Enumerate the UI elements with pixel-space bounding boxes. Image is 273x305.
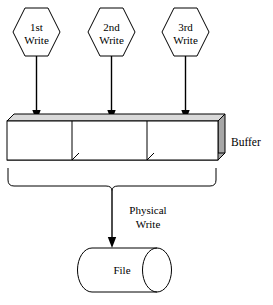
buffered-write-diagram: 1st Write 2nd Write 3rd Write: [0, 0, 273, 305]
file-label: File: [113, 264, 130, 276]
hexagon-write-3-label-line2: Write: [173, 34, 198, 46]
physical-write-label-line1: Physical: [129, 204, 166, 216]
physical-write-label-line2: Write: [136, 218, 161, 230]
arrow-write-1-to-buffer: [32, 56, 40, 121]
node-write-1[interactable]: 1st Write: [13, 8, 60, 56]
node-file[interactable]: File: [78, 248, 172, 292]
hexagon-write-2-label-line1: 2nd: [103, 21, 120, 33]
hexagon-write-2-label-line2: Write: [99, 34, 124, 46]
buffer-aggregation-brace: [8, 168, 216, 191]
physical-write-arrow-head: [108, 237, 116, 248]
arrow-write-3-to-buffer: [181, 56, 189, 121]
node-write-3[interactable]: 3rd Write: [162, 8, 209, 56]
hexagon-write-3-label-line1: 3rd: [178, 21, 193, 33]
hexagon-write-1-label-line2: Write: [24, 34, 49, 46]
arrow-write-2-to-buffer: [107, 56, 115, 121]
node-write-2[interactable]: 2nd Write: [88, 8, 135, 56]
hexagon-write-1-label-line1: 1st: [30, 21, 43, 33]
buffer-top-face: [7, 114, 225, 121]
buffer-front-face: [7, 121, 218, 160]
arrow-buffer-to-file: [108, 191, 116, 248]
buffer-label: Buffer: [231, 136, 261, 148]
diagram-canvas: 1st Write 2nd Write 3rd Write: [0, 0, 273, 305]
buffer-box[interactable]: [7, 114, 225, 160]
